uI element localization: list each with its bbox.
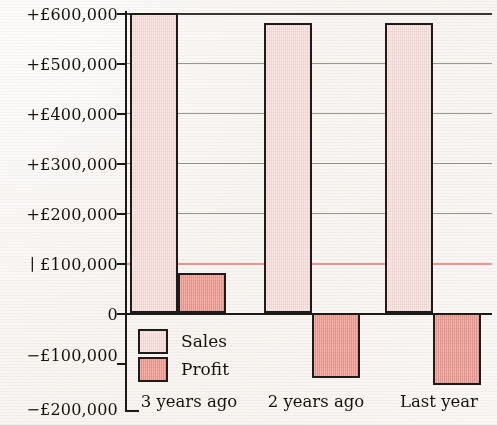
y-tick-label-600000: +£600,000	[0, 5, 118, 24]
chart-legend: Sales Profit	[138, 327, 256, 383]
bar-profit-3-years-ago[interactable]	[178, 273, 226, 313]
legend-swatch-profit-icon	[138, 357, 168, 382]
x-category-label-3-years-ago: 3 years ago	[126, 392, 252, 411]
legend-swatch-sales-icon	[138, 329, 168, 354]
y-tick-label-100000: ∣ £100,000	[0, 255, 118, 274]
x-category-label-last-year: Last year	[381, 392, 497, 411]
y-tick-label-m200000: −£200,000	[0, 400, 118, 419]
legend-label-profit: Profit	[181, 361, 229, 378]
y-tick-label-0: 0	[0, 305, 118, 324]
y-axis-tick-m100000	[117, 363, 126, 365]
y-axis-tick-300000	[117, 163, 126, 165]
y-tick-label-m100000: −£100,000	[0, 346, 118, 365]
x-category-label-2-years-ago: 2 years ago	[253, 392, 379, 411]
y-tick-label-500000: +£500,000	[0, 55, 118, 74]
y-axis-tick-600000	[117, 13, 126, 15]
y-axis-tick-200000	[117, 213, 126, 215]
y-axis-tick-400000	[117, 113, 126, 115]
bar-profit-last-year[interactable]	[433, 313, 481, 385]
bar-sales-3-years-ago[interactable]	[130, 13, 178, 313]
legend-item-profit[interactable]: Profit	[138, 355, 256, 383]
y-tick-label-400000: +£400,000	[0, 105, 118, 124]
bar-sales-2-years-ago[interactable]	[264, 23, 312, 313]
y-axis-spine	[125, 11, 127, 411]
y-axis-tick-100000	[117, 263, 126, 265]
bar-profit-2-years-ago[interactable]	[312, 313, 360, 378]
chart-page: +£600,000 +£500,000 +£400,000 +£300,000 …	[0, 0, 497, 425]
y-tick-label-300000: +£300,000	[0, 155, 118, 174]
y-tick-label-200000: +£200,000	[0, 205, 118, 224]
y-axis-tick-0	[117, 313, 126, 315]
legend-item-sales[interactable]: Sales	[138, 327, 256, 355]
y-axis-tick-500000	[117, 63, 126, 65]
legend-label-sales: Sales	[181, 333, 227, 350]
gridline-600000	[126, 13, 492, 15]
bar-sales-last-year[interactable]	[385, 23, 433, 313]
